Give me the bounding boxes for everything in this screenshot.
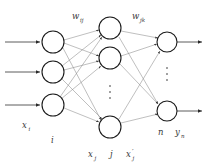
neural-network-figure: w ij w jk x i i x j j x ′ j n [0, 0, 207, 164]
hidden-layer-ellipsis [109, 85, 111, 99]
output-layer-ellipsis [166, 67, 168, 81]
input-arrows-group [5, 42, 40, 105]
input-to-hidden-edges [60, 30, 102, 122]
output-node-1 [157, 32, 177, 52]
edge-j1-n2 [119, 37, 158, 104]
edge-i1-j1 [64, 30, 99, 40]
edge-i3-j1 [60, 37, 102, 97]
edge-j3-n2 [121, 114, 158, 123]
weight-hidden-output-label: w jk [132, 11, 146, 24]
output-ellipsis-dot-1 [166, 67, 168, 69]
input-node-2 [42, 61, 64, 83]
input-signal-symbol: x [22, 120, 27, 130]
weight-jk-symbol: w [132, 11, 140, 21]
hidden-layer-index-label: j [108, 149, 113, 159]
edge-j3-n1 [119, 51, 160, 119]
edge-i3-j3 [64, 108, 99, 122]
hidden-layer-nodes [99, 17, 121, 138]
hidden-output-signal-label: x ′ j [126, 148, 135, 162]
hidden-ellipsis-dot-2 [109, 91, 111, 93]
edge-j1-n1 [121, 31, 158, 38]
input-layer-nodes [42, 31, 64, 116]
output-ellipsis-dot-3 [166, 79, 168, 81]
output-ellipsis-dot-2 [166, 73, 168, 75]
weight-jk-subscript: jk [138, 17, 146, 24]
input-node-3 [42, 94, 64, 116]
hidden-input-signal-label: x j [88, 149, 97, 162]
edge-i1-j2 [64, 43, 99, 56]
input-layer-index-label: i [51, 135, 54, 145]
input-signal-label: x i [22, 120, 31, 132]
weight-ij-symbol: w [72, 11, 80, 21]
hidden-ellipsis-dot-3 [109, 97, 111, 99]
weight-ij-subscript: ij [80, 17, 84, 24]
output-arrows-group [177, 42, 202, 111]
hidden-ellipsis-dot-1 [109, 85, 111, 87]
hidden-to-output-edges [119, 31, 160, 123]
edge-i1-j3 [63, 48, 101, 120]
network-diagram-canvas: w ij w jk x i i x j j x ′ j n [0, 0, 207, 164]
output-node-2 [157, 101, 177, 121]
edge-i2-j2 [64, 61, 99, 70]
hidden-input-signal-symbol: x [88, 149, 93, 159]
hidden-node-3 [99, 116, 121, 138]
weight-input-hidden-label: w ij [72, 11, 84, 24]
hidden-input-signal-subscript: j [93, 155, 97, 162]
output-signal-symbol: y [174, 127, 180, 137]
edge-i3-j2 [61, 66, 101, 99]
hidden-output-signal-subscript: j [131, 155, 135, 162]
input-node-1 [42, 31, 64, 53]
input-signal-subscript: i [29, 126, 31, 132]
output-signal-subscript: n [181, 133, 185, 139]
hidden-output-signal-symbol: x [126, 149, 131, 159]
edge-i2-j1 [62, 35, 101, 66]
hidden-node-2 [99, 47, 121, 69]
output-signal-label: y n [174, 127, 185, 139]
edge-i2-j3 [62, 79, 102, 119]
hidden-node-1 [99, 17, 121, 39]
output-layer-index-label: n [158, 127, 163, 137]
edge-j2-n2 [120, 64, 158, 104]
output-layer-nodes [157, 32, 177, 121]
